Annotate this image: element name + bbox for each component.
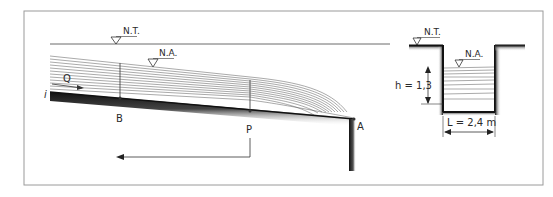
cs-water-lines — [444, 67, 494, 99]
cs-water-level-label: N.A. — [465, 49, 483, 59]
height-label: h = 1,3 — [395, 80, 432, 91]
cross-section: N.T. N.A. — [395, 27, 525, 137]
cs-ground-level-marker-icon — [413, 38, 440, 46]
longitudinal-profile: N.T. N.A. — [44, 26, 390, 171]
point-p-label: P — [246, 124, 252, 135]
point-a-label: A — [357, 121, 364, 132]
cs-water-level-marker-icon — [455, 60, 480, 68]
water-level-label: N.A. — [159, 48, 177, 58]
cs-ground-level-label: N.T. — [424, 27, 441, 37]
point-b-label: B — [116, 113, 123, 124]
direction-arrow-icon — [116, 138, 250, 160]
width-label: L = 2,4 m — [447, 117, 496, 128]
drop-wall — [349, 119, 356, 171]
slope-label: i — [44, 89, 47, 100]
water-level-marker-icon — [148, 59, 174, 68]
ground-level-label: N.T. — [123, 26, 140, 36]
flow-label: Q — [63, 73, 71, 84]
hydraulic-channel-diagram: N.T. N.A. — [0, 0, 553, 197]
ground-level-marker-icon — [111, 37, 137, 45]
